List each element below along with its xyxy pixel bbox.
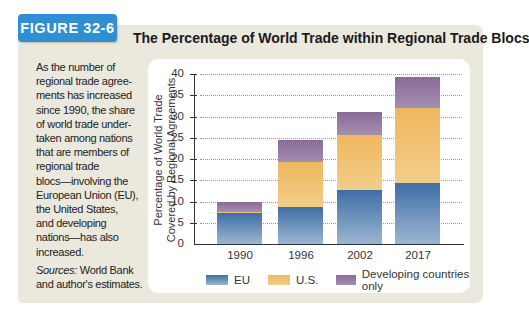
x-tick-label: 2002: [335, 249, 385, 261]
y-tick-mark: [190, 223, 197, 224]
x-tick-label: 2017: [393, 249, 443, 261]
caption-line: increased.: [36, 245, 144, 259]
caption-line: regional trade agree-: [36, 74, 144, 88]
bar-segment-us: [337, 135, 382, 191]
y-axis-label-line1: Percentage of World Trade: [152, 94, 164, 225]
bar-segment-eu: [217, 213, 262, 244]
bar-segment-us: [217, 212, 262, 214]
caption-line: nations—has also: [36, 230, 144, 244]
caption-line: since 1990, the share: [36, 103, 144, 117]
caption-line: As the number of: [36, 60, 144, 74]
caption-line: blocs—involving the: [36, 174, 144, 188]
y-tick-label: 5: [164, 216, 184, 228]
y-tick-mark: [190, 180, 197, 181]
legend-label: EU: [234, 274, 250, 286]
figure-caption: As the number of regional trade agree- m…: [36, 60, 144, 291]
sources-text: World Bank: [77, 264, 133, 276]
legend: EU U.S. Developing countries only: [206, 268, 496, 292]
y-tick-label: 30: [164, 110, 184, 122]
legend-swatch-developing: [336, 275, 355, 285]
bar-segment-dev: [217, 202, 262, 212]
bar-segment-us: [395, 108, 440, 184]
figure-label-badge: FIGURE 32-6: [18, 14, 117, 42]
legend-label: U.S.: [296, 274, 318, 286]
y-tick-mark: [190, 159, 197, 160]
gridline: [200, 74, 462, 75]
y-tick-mark: [190, 74, 197, 75]
bar-segment-eu: [395, 183, 440, 244]
y-tick-mark: [190, 138, 197, 139]
x-tick-label: 1996: [276, 249, 326, 261]
legend-swatch-us: [268, 275, 290, 285]
x-axis: [194, 244, 464, 245]
caption-line: ments has increased: [36, 88, 144, 102]
caption-line: that are members of: [36, 145, 144, 159]
legend-item-developing: Developing countries only: [336, 268, 478, 292]
legend-label: Developing countries only: [362, 268, 478, 292]
y-tick-label: 0: [164, 237, 184, 249]
legend-item-us: U.S.: [268, 274, 318, 286]
x-tick-label: 1990: [215, 249, 265, 261]
bar-segment-eu: [337, 190, 382, 244]
bar-segment-dev: [337, 112, 382, 135]
bar-segment-us: [278, 162, 323, 207]
legend-item-eu: EU: [206, 274, 250, 286]
y-tick-label: 10: [164, 195, 184, 207]
y-tick-mark: [190, 95, 197, 96]
sources-label: Sources:: [36, 264, 77, 276]
y-tick-mark: [190, 202, 197, 203]
y-tick-label: 25: [164, 131, 184, 143]
y-tick-label: 35: [164, 88, 184, 100]
y-tick-mark: [190, 117, 197, 118]
caption-line: European Union (EU),: [36, 188, 144, 202]
caption-line: the United States,: [36, 202, 144, 216]
y-tick-label: 20: [164, 152, 184, 164]
bar-segment-dev: [395, 77, 440, 108]
sources-note-line2: and author's estimates.: [36, 277, 144, 291]
legend-swatch-eu: [206, 275, 228, 285]
caption-line: regional trade: [36, 159, 144, 173]
sources-note: Sources: World Bank: [36, 263, 144, 277]
bar-segment-eu: [278, 207, 323, 244]
caption-line: taken among nations: [36, 131, 144, 145]
chart-title: The Percentage of World Trade within Reg…: [133, 30, 529, 46]
caption-line: and developing: [36, 216, 144, 230]
bar-segment-dev: [278, 140, 323, 162]
y-tick-label: 40: [164, 67, 184, 79]
caption-line: of world trade under-: [36, 117, 144, 131]
y-tick-label: 15: [164, 173, 184, 185]
